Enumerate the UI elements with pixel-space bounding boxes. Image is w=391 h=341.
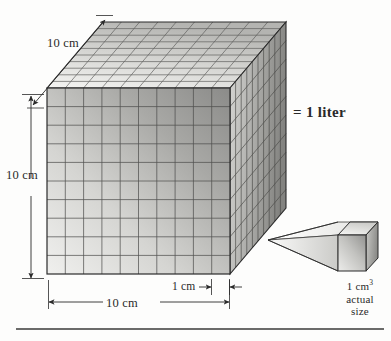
caption-line-3: size [330,305,390,318]
dimension-height [22,95,44,279]
label-depth: 10 cm [47,36,79,51]
actual-size-cube [338,222,378,271]
label-height: 10 cm [6,168,38,183]
label-width: 10 cm [106,296,138,311]
dimension-width [49,280,230,309]
figure-container: 10 cm 10 cm 10 cm 1 cm = 1 liter 1 cm3 a… [0,0,391,341]
label-unit-cell: 1 cm [172,280,195,292]
caption-volume-line: 1 cm3 [330,280,390,293]
caption-actual-size: 1 cm3 actual size [330,280,390,318]
caption-line-2: actual [330,293,390,306]
caption-value: 1 [347,280,353,292]
cube-front-face [47,88,230,274]
dimension-unit-cell [199,279,242,295]
caption-exponent: 3 [369,278,373,287]
caption-unit: cm [355,280,369,292]
label-equals-liter: = 1 liter [293,104,346,121]
